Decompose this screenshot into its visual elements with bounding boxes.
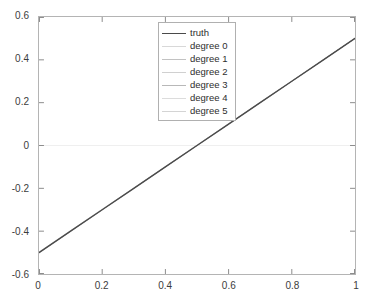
legend-item[interactable]: degree 4 [162, 91, 231, 104]
legend-line-icon [162, 79, 186, 90]
legend-item[interactable]: degree 2 [162, 65, 231, 78]
x-tick-label: 1 [353, 281, 359, 291]
x-tick-label: 0 [35, 281, 41, 291]
legend-item-label: truth [190, 27, 209, 38]
legend-item-label: degree 5 [190, 105, 228, 116]
x-tick-label: 0.6 [222, 281, 236, 291]
y-tick-label: 0.4 [15, 54, 29, 64]
legend-item-label: degree 3 [190, 79, 228, 90]
y-tick-label: 0.2 [15, 97, 29, 107]
x-axis-tick-labels: 00.20.40.60.81 [38, 279, 356, 295]
legend-item[interactable]: truth [162, 26, 231, 39]
x-tick-label: 0.8 [285, 281, 299, 291]
y-tick-label: -0.6 [12, 270, 29, 280]
x-tick-label: 0.4 [158, 281, 172, 291]
x-tick-label: 0.2 [95, 281, 109, 291]
y-tick-label: -0.2 [12, 184, 29, 194]
legend-item-label: degree 4 [190, 92, 228, 103]
y-tick-label: -0.4 [12, 227, 29, 237]
figure-canvas: 0.60.40.20-0.2-0.4-0.6 00.20.40.60.81 tr… [0, 0, 375, 305]
legend-item-label: degree 0 [190, 40, 228, 51]
legend-item[interactable]: degree 3 [162, 78, 231, 91]
y-axis-tick-labels: 0.60.40.20-0.2-0.4-0.6 [0, 16, 34, 275]
legend-line-icon [162, 40, 186, 51]
legend-line-icon [162, 53, 186, 64]
legend-line-icon [162, 105, 186, 116]
legend-item-label: degree 1 [190, 53, 228, 64]
legend-box[interactable]: truthdegree 0degree 1degree 2degree 3deg… [158, 22, 236, 121]
legend-item-label: degree 2 [190, 66, 228, 77]
y-tick-label: 0 [23, 141, 29, 151]
y-tick-label: 0.6 [15, 11, 29, 21]
legend-line-icon [162, 66, 186, 77]
legend-line-icon [162, 92, 186, 103]
legend-item[interactable]: degree 5 [162, 104, 231, 117]
legend-line-icon [162, 27, 186, 38]
legend-item[interactable]: degree 1 [162, 52, 231, 65]
legend-item[interactable]: degree 0 [162, 39, 231, 52]
